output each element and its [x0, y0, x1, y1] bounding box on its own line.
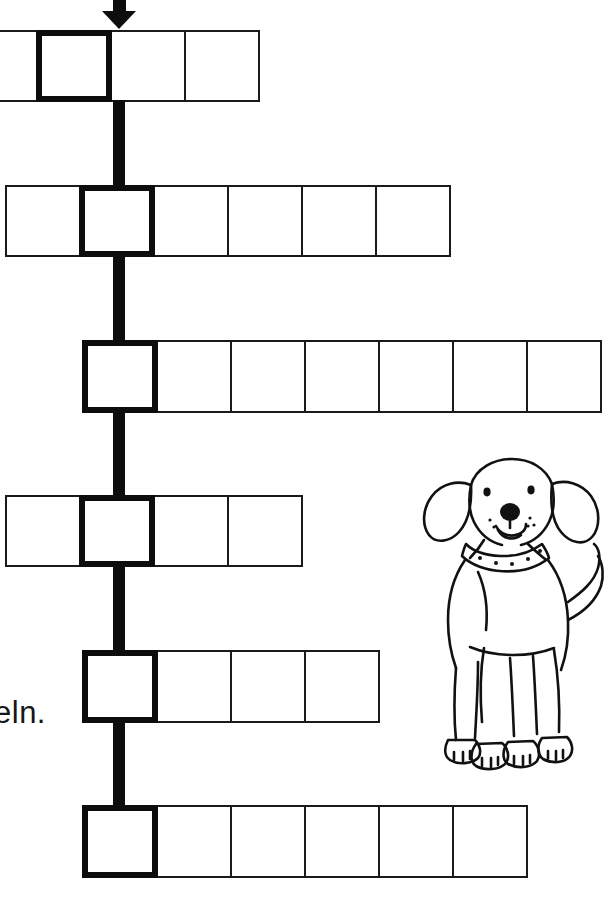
puzzle-cell[interactable]	[5, 495, 81, 567]
puzzle-cell[interactable]	[230, 340, 306, 413]
puzzle-cell[interactable]	[452, 805, 528, 878]
puzzle-key-cell[interactable]	[82, 805, 158, 878]
entry-arrow	[102, 0, 136, 30]
row-connector	[113, 100, 125, 188]
puzzle-cell[interactable]	[230, 805, 306, 878]
text-fragment: eln.	[0, 697, 46, 728]
puzzle-row	[82, 650, 380, 723]
row-connector	[113, 565, 125, 653]
arrow-head-icon	[102, 11, 136, 29]
puzzle-cell[interactable]	[184, 30, 260, 102]
puzzle-row	[82, 805, 528, 878]
puzzle-cell[interactable]	[5, 185, 81, 257]
puzzle-cell[interactable]	[227, 185, 303, 257]
puzzle-cell[interactable]	[153, 495, 229, 567]
puzzle-cell[interactable]	[375, 185, 451, 257]
puzzle-cell[interactable]	[153, 185, 229, 257]
puzzle-cell[interactable]	[0, 30, 38, 102]
puzzle-cell[interactable]	[304, 340, 380, 413]
puzzle-cell[interactable]	[156, 650, 232, 723]
puzzle-cell[interactable]	[304, 650, 380, 723]
puzzle-cell[interactable]	[378, 340, 454, 413]
row-connector	[113, 720, 125, 808]
puzzle-cell[interactable]	[156, 340, 232, 413]
puzzle-row	[0, 30, 260, 102]
puzzle-cell[interactable]	[526, 340, 602, 413]
dog-drawing-svg	[418, 452, 608, 782]
puzzle-row	[5, 185, 451, 257]
puzzle-key-cell[interactable]	[79, 495, 155, 567]
puzzle-cell[interactable]	[156, 805, 232, 878]
puzzle-cell[interactable]	[304, 805, 380, 878]
puzzle-cell[interactable]	[378, 805, 454, 878]
row-connector	[113, 255, 125, 343]
puzzle-cell[interactable]	[301, 185, 377, 257]
puzzle-row	[82, 340, 602, 413]
row-connector	[113, 410, 125, 498]
puzzle-key-cell[interactable]	[82, 650, 158, 723]
dog-drawing	[418, 452, 608, 782]
puzzle-row	[5, 495, 303, 567]
puzzle-key-cell[interactable]	[82, 340, 158, 413]
puzzle-cell[interactable]	[227, 495, 303, 567]
puzzle-key-cell[interactable]	[79, 185, 155, 257]
worksheet-page: eln.	[0, 0, 614, 902]
puzzle-key-cell[interactable]	[36, 30, 112, 102]
puzzle-cell[interactable]	[110, 30, 186, 102]
puzzle-cell[interactable]	[230, 650, 306, 723]
puzzle-cell[interactable]	[452, 340, 528, 413]
